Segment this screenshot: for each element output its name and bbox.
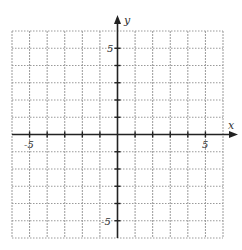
y-axis-label: y bbox=[123, 14, 131, 27]
x-tick-label-neg5: -5 bbox=[24, 139, 34, 150]
x-axis-arrow-icon bbox=[229, 131, 238, 138]
coordinate-plane: y x -5 5 5 -5 bbox=[0, 0, 242, 250]
x-axis-label: x bbox=[228, 119, 235, 132]
y-tick-label-5: 5 bbox=[107, 43, 113, 54]
x-tick-label-5: 5 bbox=[202, 139, 208, 150]
y-axis-arrow-icon bbox=[114, 15, 121, 24]
y-tick-label-neg5: -5 bbox=[101, 216, 111, 227]
